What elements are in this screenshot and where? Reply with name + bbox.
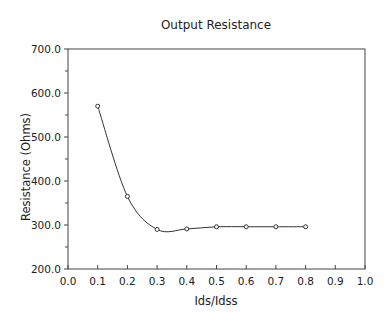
data-point — [125, 194, 129, 198]
y-tick-label: 600.0 — [31, 87, 61, 99]
data-line — [98, 106, 306, 232]
x-tick-label: 0.0 — [60, 275, 77, 287]
y-tick-label: 400.0 — [31, 175, 61, 187]
x-tick-label: 0.8 — [297, 275, 314, 287]
y-tick-label: 500.0 — [31, 131, 61, 143]
x-tick-label: 0.9 — [327, 275, 344, 287]
data-point — [215, 225, 219, 229]
x-tick-label: 1.0 — [357, 275, 374, 287]
data-point — [155, 227, 159, 231]
y-axis-ticks: 200.0300.0400.0500.0600.0700.0 — [31, 43, 68, 275]
output-resistance-chart: Output Resistance 200.0300.0400.0500.060… — [0, 0, 386, 321]
x-tick-label: 0.5 — [208, 275, 225, 287]
x-tick-label: 0.4 — [178, 275, 195, 287]
data-point — [185, 227, 189, 231]
x-tick-label: 0.7 — [268, 275, 285, 287]
y-tick-label: 700.0 — [31, 43, 61, 55]
x-tick-label: 0.3 — [149, 275, 166, 287]
x-tick-label: 0.6 — [238, 275, 255, 287]
y-axis-label: Resistance (Ohms) — [19, 113, 33, 221]
chart-title: Output Resistance — [161, 18, 271, 32]
y-tick-label: 200.0 — [31, 263, 61, 275]
y-tick-label: 300.0 — [31, 219, 61, 231]
data-markers — [96, 104, 308, 231]
data-point — [274, 225, 278, 229]
data-point — [96, 104, 100, 108]
data-point — [304, 225, 308, 229]
x-axis-ticks: 0.00.10.20.30.40.50.60.70.80.91.0 — [60, 265, 374, 287]
x-tick-label: 0.1 — [89, 275, 106, 287]
x-tick-label: 0.2 — [119, 275, 136, 287]
data-point — [244, 225, 248, 229]
x-axis-label: Ids/Idss — [194, 294, 237, 308]
plot-frame — [68, 49, 365, 269]
